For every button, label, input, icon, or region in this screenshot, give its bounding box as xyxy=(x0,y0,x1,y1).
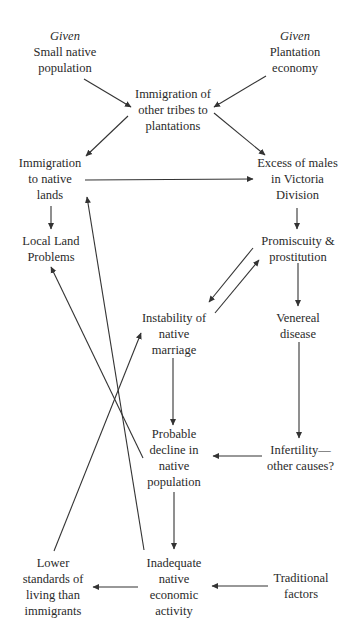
node-traditional-factors: Traditional factors xyxy=(265,570,337,602)
node-small-native-population: Given Small native population xyxy=(10,28,120,76)
node-infertility: Infertility— other causes? xyxy=(258,442,343,474)
given-label: Given xyxy=(10,28,120,44)
node-excess-of-males: Excess of males in Victoria Division xyxy=(245,155,350,203)
node-venereal-disease: Venereal disease xyxy=(262,310,334,342)
node-local-land-problems: Local Land Problems xyxy=(5,233,97,265)
node-immigration-native-lands: Immigration to native lands xyxy=(5,155,95,203)
node-instability-marriage: Instability of native marriage xyxy=(128,310,220,358)
node-probable-decline: Probable decline in native population xyxy=(138,426,210,490)
edge-native-lands-to-excess-males xyxy=(85,179,253,180)
edge-lower-standards-to-instability xyxy=(54,333,141,551)
node-immigration-other-tribes: Immigration of other tribes to plantatio… xyxy=(118,86,228,134)
node-promiscuity: Promiscuity & prostitution xyxy=(252,233,344,265)
node-lower-standards: Lower standards of living than immigrant… xyxy=(14,555,92,619)
given-label: Given xyxy=(245,28,345,44)
node-plantation-economy: Given Plantation economy xyxy=(245,28,345,76)
node-inadequate-activity: Inadequate native economic activity xyxy=(138,555,210,619)
